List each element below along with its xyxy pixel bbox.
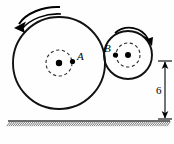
wheel-b-label: B <box>104 42 111 54</box>
dimension-value-label: 6 <box>156 84 162 96</box>
wheel-a-group: A <box>13 17 105 109</box>
wheel-b-center-dot <box>125 52 131 58</box>
wheel-a-label: A <box>76 50 84 62</box>
wheel-a-rotation-arrow <box>14 7 61 33</box>
mechanics-diagram: A B 6 <box>0 0 174 144</box>
ground-hatching <box>7 122 171 127</box>
wheel-a-center-dot <box>56 60 62 66</box>
wheel-b-group: B <box>104 31 152 79</box>
ground-surface <box>7 121 171 126</box>
wheel-b-rotation-arrow <box>115 28 153 46</box>
dimension-callout: 6 <box>156 61 172 119</box>
wheel-b-rotation-arrowhead <box>144 36 154 46</box>
wheel-a-hub-marker-dot <box>70 59 75 64</box>
figure-root: A B 6 <box>0 0 174 144</box>
wheel-b-hub-marker-dot <box>113 52 118 57</box>
